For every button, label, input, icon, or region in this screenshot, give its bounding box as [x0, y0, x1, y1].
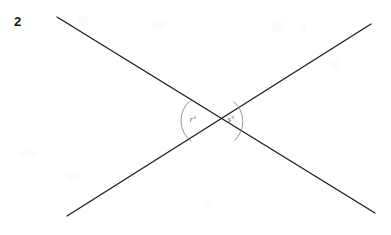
line-lower-left-to-upper-right	[67, 24, 371, 216]
angle-label-r: r°	[190, 115, 197, 124]
line-upper-left-to-lower-right	[57, 17, 375, 213]
figure-svg: r° s°	[0, 0, 391, 235]
geometry-figure-canvas: 2 r° s°	[0, 0, 391, 235]
angle-label-s: s°	[228, 115, 235, 124]
